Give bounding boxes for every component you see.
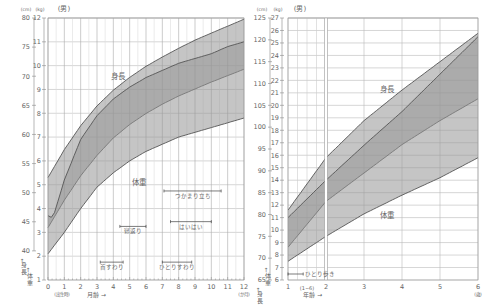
weight-tick-label: 6 [37, 157, 41, 165]
x-tick-label: 5 [438, 283, 442, 291]
milestone-label: はいはい [179, 224, 203, 231]
weight-tick-label: 17 [271, 139, 279, 147]
x-tick-label: 6 [144, 283, 148, 291]
x-tick-label: 11 [224, 283, 232, 291]
weight-tick-label: 2 [37, 252, 41, 260]
x-tick-label: 6 [476, 283, 480, 291]
weight-axis-title: 重 [265, 279, 271, 286]
x-tick-label: 2 [79, 283, 83, 291]
x-tick-label: 3 [362, 283, 366, 291]
weight-tick-label: 5 [37, 181, 41, 189]
weight-tick-label: 25 [271, 39, 279, 47]
height-tick-label: 125 [254, 14, 266, 22]
height-unit-label: (cm) [21, 7, 32, 12]
height-tick-label: 75 [22, 43, 30, 51]
weight-tick-label: 14 [271, 176, 279, 184]
weight-tick-label: 27 [271, 14, 279, 22]
height-tick-label: 70 [22, 73, 30, 81]
weight-tick-label: 12 [33, 14, 41, 22]
weight-tick-label: 23 [271, 64, 279, 72]
weight-tick-label: 9 [37, 86, 41, 94]
weight-axis-title: 重 [27, 279, 33, 286]
weight-tick-label: 12 [271, 201, 279, 209]
height-tick-label: 120 [254, 36, 266, 44]
milestone-label: つかまり立ち [175, 192, 211, 200]
weight-tick-label: 3 [37, 229, 41, 237]
height-tick-label: 50 [22, 189, 30, 197]
weight-tick-label: 11 [271, 214, 279, 222]
weight-tick-label: 7 [275, 264, 279, 272]
weight-tick-label: 15 [271, 164, 279, 172]
height-tick-label: 55 [22, 160, 30, 168]
height-axis: 404550556065707580(cm)→身長 [18, 7, 36, 276]
weight-tick-label: 21 [271, 89, 279, 97]
milestone-1: はいはい [171, 220, 212, 231]
weight-unit-label: (kg) [36, 7, 45, 12]
weight-tick-label: 8 [275, 251, 279, 259]
x-sub-label: (1~6) [300, 285, 315, 291]
milestone-label: 首すわり [100, 263, 124, 271]
height-tick-label: 60 [22, 131, 30, 139]
weight-tick-label: 8 [37, 110, 41, 118]
height-axis-title: 長 [257, 297, 263, 305]
weight-tick-label: 6 [275, 276, 279, 284]
height-tick-label: 80 [22, 14, 30, 22]
chart-title: (男) [294, 5, 307, 13]
height-tick-label: 80 [258, 211, 266, 219]
x-origin-label: (出生時) [54, 291, 70, 298]
milestones: ひとり歩き [288, 270, 335, 278]
x-tick-label: 12 [240, 283, 248, 291]
milestone-2: 寝返り [120, 225, 146, 236]
weight-tick-label: 26 [271, 27, 279, 35]
height-tick-label: 70 [258, 254, 266, 262]
height-tick-label: 40 [22, 247, 30, 255]
weight-tick-label: 24 [271, 52, 279, 60]
x-tick-label: 2 [324, 283, 328, 291]
milestone-4: ひとりすわり [159, 261, 195, 272]
height-band-label: 身長 [111, 71, 126, 81]
height-band-label: 身長 [380, 84, 395, 94]
x-tick-label: 4 [400, 283, 404, 291]
weight-tick-label: 18 [271, 127, 279, 135]
x-axis-title: 月齢 → [87, 291, 106, 299]
height-tick-label: 115 [254, 58, 266, 66]
height-tick-label: 90 [258, 167, 266, 175]
x-unit-label: (か月) [238, 291, 250, 298]
weight-tick-label: 9 [275, 239, 279, 247]
child-chart: 65707580859095100105110115120125(cm)→身長6… [254, 5, 482, 305]
weight-tick-label: 19 [271, 114, 279, 122]
growth-charts: 404550556065707580(cm)→身長123456789101112… [0, 0, 486, 307]
milestone-0: つかまり立ち [164, 189, 221, 200]
x-tick-label: 4 [111, 283, 115, 291]
height-tick-label: 105 [254, 102, 266, 110]
weight-tick-label: 11 [33, 38, 41, 46]
milestone-label: ひとり歩き [305, 270, 335, 278]
x-tick-label: 7 [160, 283, 164, 291]
x-tick-label: 3 [95, 283, 99, 291]
x-tick-label: 8 [177, 283, 181, 291]
height-tick-label: 75 [258, 233, 266, 241]
height-unit-label: (cm) [257, 7, 268, 12]
weight-tick-label: 22 [271, 77, 279, 85]
weight-tick-label: 10 [271, 226, 279, 234]
weight-tick-label: 7 [37, 133, 41, 141]
height-tick-label: 65 [22, 102, 30, 110]
infant-chart: 404550556065707580(cm)→身長123456789101112… [18, 5, 250, 299]
milestone-label: 寝返り [124, 227, 142, 235]
weight-band-label: 体重 [380, 210, 395, 220]
weight-unit-label: (kg) [274, 7, 283, 12]
x-unit-label: (歳) [474, 291, 482, 297]
height-tick-label: 45 [22, 218, 30, 226]
weight-tick-label: 13 [271, 189, 279, 197]
height-tick-label: 110 [254, 80, 266, 88]
x-axis: 123456(歳)年齢 →(1~6) [286, 283, 482, 299]
x-axis-title: 年齢 → [303, 291, 322, 299]
weight-tick-label: 4 [37, 205, 41, 213]
section-divider [325, 18, 328, 280]
weight-tick-label: 10 [33, 62, 41, 70]
height-tick-label: 100 [254, 123, 266, 131]
weight-tick-label: 20 [271, 102, 279, 110]
x-tick-label: 5 [128, 283, 132, 291]
weight-tick-label: 1 [37, 276, 41, 284]
milestone-3: 首すわり [100, 261, 124, 272]
